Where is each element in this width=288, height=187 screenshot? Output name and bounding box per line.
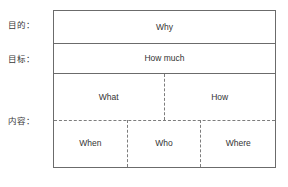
side-label-goal: 目标：: [8, 55, 52, 64]
diagram-table-frame: Why How much What How When Who Where: [53, 10, 276, 168]
cell-what: What: [54, 74, 165, 120]
side-label-content: 内容：: [8, 117, 52, 126]
cell-why: Why: [54, 11, 275, 43]
table-row-why: Why: [54, 11, 275, 44]
table-row-how-much: How much: [54, 44, 275, 74]
cell-how-much: How much: [54, 44, 275, 73]
cell-where: Where: [201, 120, 275, 167]
cell-when: When: [54, 120, 128, 167]
table-row-what-how: What How: [54, 74, 275, 120]
side-label-purpose: 目的：: [8, 21, 52, 30]
table-row-when-who-where: When Who Where: [54, 120, 275, 167]
cell-who: Who: [128, 120, 202, 167]
five-w-two-h-diagram: 目的： 目标： 内容： Why How much What How When W…: [0, 0, 288, 187]
cell-how: How: [165, 74, 276, 120]
